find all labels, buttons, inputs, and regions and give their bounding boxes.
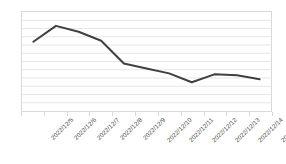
x-axis-labels: 2022/12/52022/12/62022/12/72022/12/82022… bbox=[21, 116, 272, 156]
x-axis-label: 2022/12/5 bbox=[50, 116, 75, 141]
series-polyline bbox=[33, 26, 259, 82]
x-axis-tick bbox=[272, 112, 273, 116]
line-chart-figure: 2022/12/52022/12/62022/12/72022/12/82022… bbox=[0, 0, 286, 164]
plot-area bbox=[21, 11, 272, 112]
x-axis-label: 2022/12/9 bbox=[141, 116, 166, 141]
data-series-line bbox=[22, 12, 271, 111]
x-axis-label: 2022/12/6 bbox=[73, 116, 98, 141]
x-axis-label: 2022/12/7 bbox=[95, 116, 120, 141]
caption-strip bbox=[0, 154, 286, 164]
x-axis-label: 2022/12/8 bbox=[118, 116, 143, 141]
